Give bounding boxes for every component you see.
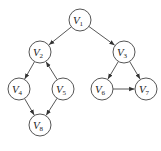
edge-v5-v2 [46, 62, 57, 80]
node-v8: V8 [29, 114, 51, 136]
edge-v3-v6 [108, 61, 119, 79]
edge-v3-v7 [130, 61, 141, 79]
node-v1: V1 [69, 9, 91, 31]
edge-v4-v8 [25, 99, 35, 116]
node-v7: V7 [135, 78, 157, 100]
edges [25, 26, 141, 115]
node-v4: V4 [8, 78, 30, 100]
nodes: V1V2V3V4V5V6V7V8 [8, 9, 157, 136]
edge-v1-v2 [49, 27, 71, 45]
node-v5: V5 [52, 78, 74, 100]
directed-graph: V1V2V3V4V5V6V7V8 [0, 0, 161, 151]
node-v3: V3 [113, 41, 135, 63]
edge-v2-v4 [25, 62, 35, 79]
node-v6: V6 [91, 78, 113, 100]
edge-v5-v8 [46, 98, 57, 115]
edge-v1-v3 [89, 26, 115, 45]
node-v2: V2 [29, 41, 51, 63]
